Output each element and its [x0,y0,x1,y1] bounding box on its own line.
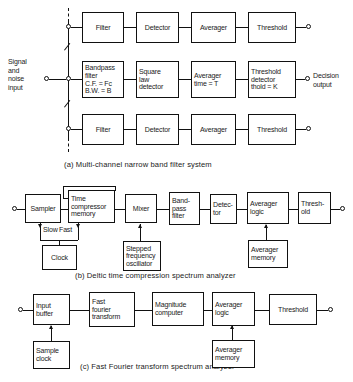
block-label: Clock [50,254,69,262]
row-middle-link-3 [236,79,248,80]
panel-a-averager-time[interactable]: Averager time = T [191,61,236,98]
row-bottom-link-3 [236,129,248,130]
row-middle-link-1 [124,79,136,80]
row-middle-link-2 [179,79,191,80]
row-middle-lead-in [71,79,82,80]
block-label: Threshold [277,306,309,314]
block-label: Thresh- old [299,200,325,215]
panel-b-detector[interactable]: Detec- tor [210,194,237,224]
panel-a-row-bottom-averager[interactable]: Averager [191,114,236,145]
block-label: Input buffer [34,302,54,317]
panel-c-fast-fourier-transform[interactable]: Fast fourier transform [89,292,135,327]
panel-a-square-law-detector[interactable]: Square law detector [136,61,179,98]
panel-c-input-lead [23,310,33,311]
block-label: Averager logic [248,200,278,215]
row-top-lead-in [71,27,82,28]
block-label: Threshold [256,126,288,134]
panel-c-input-buffer[interactable]: Input buffer [33,294,70,325]
block-label: Sample clock [34,347,60,362]
panel-a-row-top-detector[interactable]: Detector [136,12,179,43]
block-label: Averager [199,24,228,32]
block-label: Averager memory [249,246,279,261]
panel-a-threshold-detector[interactable]: Threshold detector thold = K [248,61,296,98]
block-label: Averager memory [213,346,243,361]
row-bottom-tap-node [66,126,71,131]
panel-a-row-top-filter[interactable]: Filter [82,12,124,43]
row-top-output-node [306,24,311,29]
row-top-link-2 [179,27,191,28]
row-middle-lead-out [296,79,305,80]
panel-a-caption: (a) Multi-channel narrow band filter sys… [64,160,212,169]
panel-b-link-tcm-mixer [115,209,125,210]
panel-b-sampler[interactable]: Sampler [25,194,61,223]
fast-label: Fast [59,226,72,235]
panel-c-output-node [328,307,333,312]
panel-b-link-bpf-detector [200,209,210,210]
block-label: Averager logic [213,301,243,316]
panel-c-magnitude-computer[interactable]: Magnitude computer [152,292,204,326]
block-label: Square law detector [137,68,164,91]
panel-a-row-top-averager[interactable]: Averager [191,12,236,43]
panel-a-row-bottom-filter[interactable]: Filter [82,114,124,145]
panel-c-averager-memory[interactable]: Averager memory [212,340,255,368]
block-label: Threshold [256,24,288,32]
row-top-tap-node [66,24,71,29]
sample-clock-arrow-icon [49,325,53,329]
panel-b-averager-memory[interactable]: Averager memory [248,240,288,268]
panel-a-row-bottom-threshold[interactable]: Threshold [248,114,296,145]
bus-dashed-top [68,8,69,22]
row-bottom-lead-in [71,129,82,130]
block-label: Detector [144,24,171,32]
input-terminal-node [44,76,49,81]
block-label: Bandpass filter C.F. = Fc B.W. = B [83,64,116,94]
signal-and-noise-input-label: Signal and noise input [8,58,44,92]
panel-b-output-lead [331,209,340,210]
panel-c-link-buffer-fft [70,310,89,311]
row-top-link-3 [236,27,248,28]
row-bottom-link-1 [124,129,136,130]
tcm-feedback-top [63,186,116,187]
block-label: Sampler [29,205,56,213]
block-label: Threshold detector thold = K [249,68,282,91]
row-bottom-lead-out [296,129,306,130]
panel-c-threshold[interactable]: Threshold [269,294,317,325]
block-label: Band- pass filter [170,197,191,220]
block-label: Stepped frequency oscillator [124,245,156,268]
panel-b-averager-logic[interactable]: Averager logic [247,192,289,224]
row-top-link-1 [124,27,136,28]
slow-arrow-icon [38,224,42,228]
fast-arrow-icon [76,224,80,228]
panel-c-link-avglogic-threshold [255,310,269,311]
block-label: Magnitude computer [153,301,187,316]
panel-b-link-mixer-bpf [157,209,169,210]
panel-b-time-compressor-memory[interactable]: Time compressor memory [68,190,115,223]
block-label: Fast fourier transform [90,298,121,321]
panel-b-mixer[interactable]: Mixer [125,194,157,223]
panel-a-row-bottom-detector[interactable]: Detector [136,114,179,145]
block-label: Time compressor memory [69,195,107,218]
panel-b-caption: (b) Deltic time compression spectrum ana… [75,271,236,280]
panel-b-output-node [340,206,345,211]
panel-b-clock[interactable]: Clock [42,245,77,270]
block-label: Mixer [132,205,150,213]
panel-c-averager-logic[interactable]: Averager logic [212,292,255,326]
decision-output-node [305,76,310,81]
panel-b-bandpass-filter[interactable]: Band- pass filter [169,192,200,225]
panel-a-bandpass-filter[interactable]: Bandpass filter C.F. = Fc B.W. = B [82,61,124,98]
panel-b-link-detector-avglogic [237,209,247,210]
panel-c-output-lead [317,310,328,311]
block-label: Filter [95,126,112,134]
tcm-feedback-left-drop [63,186,64,198]
input-lead [49,79,66,80]
panel-c-sample-clock[interactable]: Sample clock [33,341,70,369]
panel-c-input-node [18,307,23,312]
panel-b-stepped-frequency-oscillator[interactable]: Stepped frequency oscillator [123,241,161,271]
bus-dashed-bottom [68,138,69,152]
panel-b-link-sampler-tcm [61,209,68,210]
block-label: Averager [199,126,228,134]
panel-a-row-top-threshold[interactable]: Threshold [248,12,296,43]
row-top-lead-out [296,27,306,28]
block-label: Averager time = T [192,72,222,87]
panel-b-threshold[interactable]: Thresh- old [298,192,331,224]
row-bottom-output-node [306,126,311,131]
